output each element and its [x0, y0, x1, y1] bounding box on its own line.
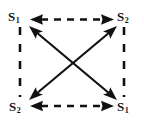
- edge-bottom-edge: [30, 101, 114, 112]
- node-subscript-top-right: 2: [124, 16, 129, 25]
- edge-top-edge: [30, 14, 114, 25]
- bottom-edge-arrowhead-right: [101, 101, 114, 112]
- node-label-top-right: S2: [117, 10, 129, 25]
- diagram-canvas: S1 S2 S2 S1: [0, 0, 144, 125]
- node-label-bottom-left: S2: [9, 100, 21, 115]
- top-edge-arrowhead-right: [101, 14, 114, 25]
- node-subscript-bottom-right: 1: [124, 106, 129, 115]
- node-subscript-top-left: 1: [15, 16, 20, 25]
- node-subscript-bottom-left: 2: [16, 106, 21, 115]
- bottom-edge-arrowhead-left: [30, 101, 43, 112]
- node-label-top-left: S1: [8, 10, 20, 25]
- top-edge-arrowhead-left: [30, 14, 43, 25]
- node-label-bottom-right: S1: [117, 100, 129, 115]
